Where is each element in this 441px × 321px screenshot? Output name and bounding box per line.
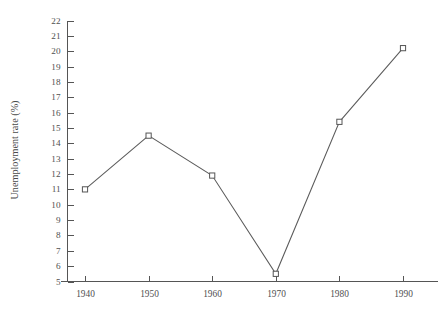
y-tick-label-7: 7	[56, 246, 61, 256]
unemployment-rate-line-chart: 5678910111213141516171819202122 19401950…	[0, 0, 441, 321]
x-tick-label-1950: 1950	[140, 289, 159, 299]
y-tick-label-19: 19	[51, 62, 61, 72]
x-tick-label-1990: 1990	[394, 289, 413, 299]
y-axis-title: Unemployment rate (%)	[9, 100, 21, 199]
y-tick-label-13: 13	[51, 154, 61, 164]
y-tick-label-22: 22	[51, 16, 61, 26]
chart-canvas: 5678910111213141516171819202122 19401950…	[0, 0, 441, 321]
y-axis-ticks	[68, 22, 74, 283]
x-tick-label-1970: 1970	[267, 289, 286, 299]
x-tick-label-1960: 1960	[203, 289, 222, 299]
y-tick-label-16: 16	[51, 108, 61, 118]
y-tick-label-18: 18	[51, 77, 61, 87]
y-tick-label-5: 5	[56, 277, 61, 287]
x-axis: 194019501960197019801990	[61, 276, 439, 299]
y-tick-label-10: 10	[51, 200, 61, 210]
x-tick-label-1940: 1940	[76, 289, 95, 299]
data-point-1960	[210, 173, 215, 178]
data-series-unemployment-rate	[82, 46, 405, 277]
x-tick-label-1980: 1980	[330, 289, 349, 299]
data-point-1950	[146, 133, 151, 138]
series-line-path	[85, 48, 403, 274]
data-point-1980	[337, 119, 342, 124]
data-point-1940	[82, 187, 87, 192]
data-point-1970	[273, 271, 278, 276]
y-tick-label-9: 9	[56, 215, 61, 225]
y-tick-label-20: 20	[51, 46, 61, 56]
y-tick-label-11: 11	[52, 184, 61, 194]
y-axis-tick-labels: 5678910111213141516171819202122	[51, 16, 61, 287]
y-tick-label-6: 6	[56, 261, 61, 271]
y-tick-label-21: 21	[51, 31, 61, 41]
series-markers	[82, 46, 405, 277]
y-tick-label-14: 14	[51, 138, 61, 148]
y-tick-label-17: 17	[51, 92, 61, 102]
x-axis-ticks	[86, 276, 404, 282]
y-tick-label-8: 8	[56, 230, 61, 240]
y-tick-label-12: 12	[51, 169, 61, 179]
y-tick-label-15: 15	[51, 123, 61, 133]
data-point-1990	[400, 46, 405, 51]
x-axis-tick-labels: 194019501960197019801990	[76, 289, 413, 299]
y-axis: 5678910111213141516171819202122	[51, 16, 73, 287]
